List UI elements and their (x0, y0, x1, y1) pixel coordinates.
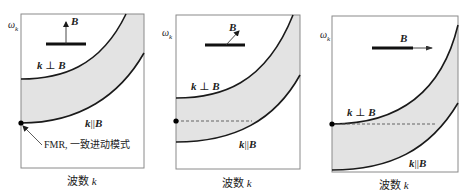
panel-field-out-of-plane: Bωkk ⊥ Bk||B波数 kFMR, 一致进动模式 (8, 14, 144, 187)
x-axis-label-wavenumber: 波数 k (222, 177, 253, 189)
k-perp-b-label: k ⊥ B (37, 59, 66, 71)
field-b-label: B (70, 15, 78, 27)
panel-field-in-plane: Bωkk ⊥ Bk||B波数 k (320, 16, 458, 191)
fmr-pointer-arrow-icon (23, 126, 42, 145)
panel-field-oblique: Bωkk ⊥ Bk||B波数 k (162, 15, 300, 189)
field-b-label: B (228, 21, 236, 33)
k-par-b-label: k||B (409, 157, 426, 169)
spin-wave-dispersion-figure: Bωkk ⊥ Bk||B波数 kFMR, 一致进动模式 Bωkk ⊥ Bk||B… (0, 0, 466, 195)
y-axis-label-omega-k: ωk (8, 19, 19, 33)
k-perp-b-label: k ⊥ B (347, 106, 376, 118)
k-par-b-label: k||B (85, 117, 102, 129)
x-axis-label-wavenumber: 波数 k (67, 175, 98, 187)
spin-wave-band (176, 15, 300, 142)
k-par-b-label: k||B (239, 138, 256, 150)
fmr-point-dot (18, 120, 23, 125)
field-b-label: B (399, 32, 407, 44)
x-axis-label-wavenumber: 波数 k (379, 179, 410, 191)
y-axis-label-omega-k: ωk (162, 27, 173, 41)
fmr-annotation-label: FMR, 一致进动模式 (44, 138, 130, 150)
field-direction-arrow-icon (226, 31, 239, 45)
k-perp-b-label: k ⊥ B (191, 80, 220, 92)
fmr-point-dot (173, 118, 178, 123)
y-axis-label-omega-k: ωk (320, 29, 331, 43)
fmr-point-dot (329, 121, 334, 126)
figure-canvas: Bωkk ⊥ Bk||B波数 kFMR, 一致进动模式 Bωkk ⊥ Bk||B… (0, 0, 466, 195)
